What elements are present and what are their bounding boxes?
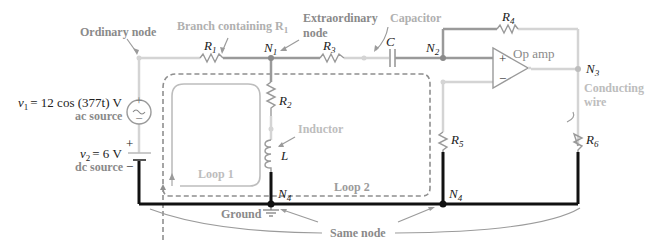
label-wire: wire <box>584 95 607 109</box>
label-r1: R1 <box>203 38 216 55</box>
plus-sign: + <box>135 93 142 108</box>
svg-text:Branch containing R1: Branch containing R1 <box>177 19 289 35</box>
node-n2-dot <box>440 55 446 61</box>
inductor-l <box>265 140 271 172</box>
label-c: C <box>386 34 395 49</box>
label-branch: Branch containing R1 <box>177 19 289 35</box>
node-dot-r2-l <box>269 127 274 132</box>
label-ac-source: ac source <box>75 109 123 123</box>
loop-2-path <box>160 74 430 240</box>
node-n4-dot <box>268 201 275 208</box>
label-r2: R2 <box>278 93 292 110</box>
ordinary-node-dot <box>137 56 142 61</box>
label-n1: N1 <box>263 40 277 57</box>
resistor-r3 <box>320 54 344 62</box>
circuit-diagram: + − + − <box>0 0 667 250</box>
label-conducting: Conducting <box>584 81 644 95</box>
label-r4: R4 <box>501 9 515 26</box>
label-ground: Ground <box>221 207 262 221</box>
label-n2: N2 <box>425 40 440 57</box>
label-branch-sub: 1 <box>284 25 289 35</box>
label-extraordinary: Extraordinary <box>303 11 378 25</box>
node-n4-right-dot <box>440 201 447 208</box>
resistor-r5 <box>439 132 447 152</box>
wire-mid <box>223 29 497 82</box>
node-dot-minus <box>441 80 446 85</box>
label-branch-text: Branch containing R <box>177 19 284 33</box>
label-l: L <box>280 148 288 163</box>
node-n3-dot <box>575 66 581 72</box>
v1-equation: = 12 cos (377t) V <box>30 95 122 110</box>
label-r3: R3 <box>322 38 336 55</box>
label-op-amp: Op amp <box>513 46 555 61</box>
label-n4-right: N4 <box>448 186 463 203</box>
label-ordinary-node: Ordinary node <box>80 25 157 39</box>
resistor-r1 <box>200 54 223 62</box>
resistor-r2 <box>267 82 275 116</box>
label-inductor: Inductor <box>298 122 344 136</box>
label-n3: N3 <box>585 61 600 78</box>
dc-minus: − <box>126 159 133 174</box>
op-amp-plus: + <box>499 51 506 66</box>
label-dc-source: dc source <box>75 160 124 174</box>
label-n4: N4 <box>277 186 292 203</box>
dc-plus: + <box>126 136 133 151</box>
label-same-node: Same node <box>330 226 386 240</box>
minus-sign: − <box>135 111 142 126</box>
capacitor-c <box>390 49 395 67</box>
label-r5: R5 <box>450 132 464 149</box>
node-dot-r3-c <box>362 56 367 61</box>
label-r6: R6 <box>585 132 599 149</box>
label-capacitor: Capacitor <box>390 11 442 25</box>
v2-equation: = 6 V <box>92 146 122 161</box>
resistor-r4 <box>497 25 518 33</box>
ac-source: + − <box>127 93 151 126</box>
label-loop-2: Loop 2 <box>334 180 370 194</box>
label-loop-1: Loop 1 <box>198 167 234 181</box>
op-amp-minus: − <box>499 71 506 86</box>
v1-sub: 1 <box>24 102 29 112</box>
